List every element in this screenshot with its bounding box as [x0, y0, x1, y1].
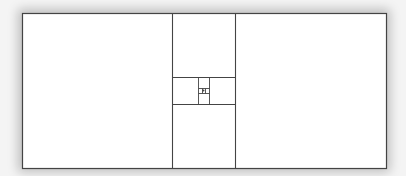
diagram-canvas: [0, 0, 406, 176]
nested-rectangles-diagram: [0, 0, 406, 176]
center-point: [203, 90, 205, 92]
outer-rectangle: [23, 14, 387, 169]
